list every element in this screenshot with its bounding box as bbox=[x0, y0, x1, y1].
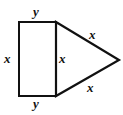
label-middle-x: x bbox=[59, 52, 66, 65]
label-upper-right-x: x bbox=[89, 28, 96, 41]
label-left-x: x bbox=[4, 52, 11, 65]
geometry-figure: y y x x x x bbox=[0, 0, 123, 115]
label-top-y: y bbox=[33, 5, 39, 18]
rectangle-shape bbox=[19, 22, 56, 96]
label-bottom-y: y bbox=[33, 97, 39, 110]
label-lower-right-x: x bbox=[87, 81, 94, 94]
